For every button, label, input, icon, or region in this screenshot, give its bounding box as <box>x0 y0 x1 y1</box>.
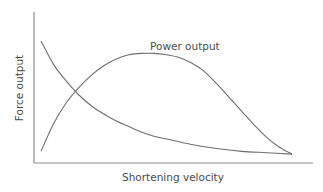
force-output-curve <box>41 41 292 154</box>
power-output-annotation: Power output <box>150 40 220 52</box>
force-power-chart: Power output Shortening velocity Force o… <box>0 0 323 192</box>
y-axis-label: Force output <box>13 55 25 121</box>
x-axis-label: Shortening velocity <box>122 171 224 183</box>
